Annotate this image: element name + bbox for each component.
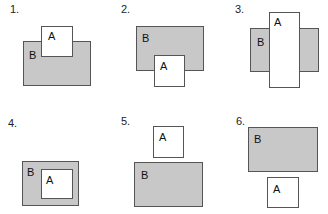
rect-b: B [248,127,318,172]
rect-a-label: A [160,61,167,72]
panel-number: 5. [121,116,130,127]
rect-a-label: A [273,184,280,195]
panel-number: 3. [235,4,244,15]
rect-a: A [269,12,300,88]
rect-b-label: B [257,37,264,48]
panel-number: 1. [10,4,19,15]
rect-a: A [154,55,185,87]
rect-a: A [41,26,73,57]
rect-a-label: A [159,132,166,143]
rect-a: A [153,126,184,158]
rect-b-label: B [254,134,261,145]
rect-b-label: B [27,167,34,178]
rect-a: A [267,177,299,208]
panel-number: 4. [8,118,17,129]
rect-b-label: B [29,50,36,61]
rect-a-label: A [46,175,53,186]
rect-b-label: B [142,33,149,44]
rect-a: A [41,169,73,199]
rect-b: B [134,162,203,207]
rect-a-label: A [274,17,281,28]
rect-a-label: A [48,31,55,42]
panel-number: 6. [236,116,245,127]
panel-number: 2. [121,4,130,15]
rect-b-label: B [141,170,148,181]
